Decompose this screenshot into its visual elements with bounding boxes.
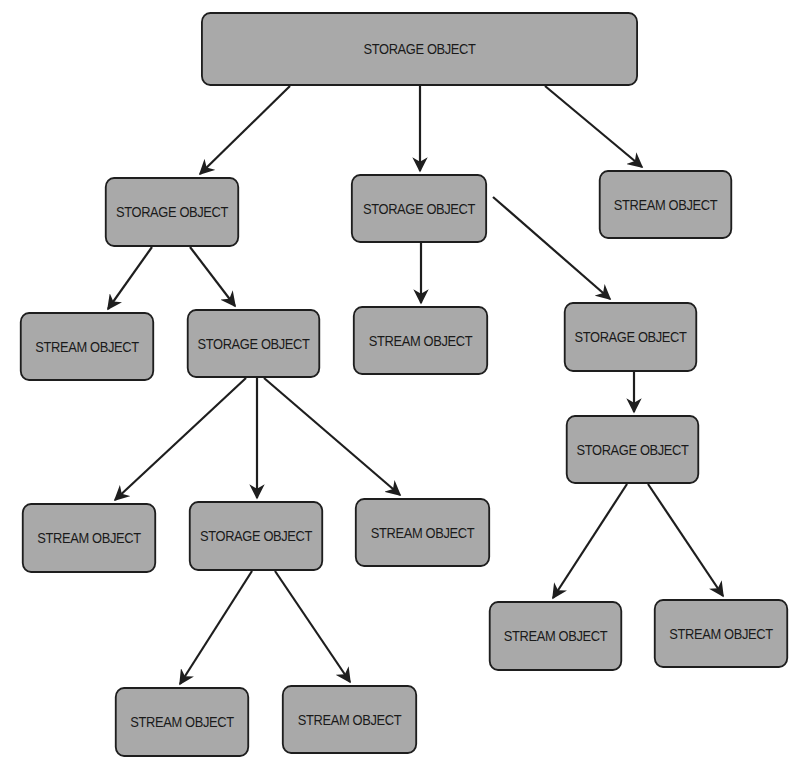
node-label: STORAGE OBJECT [200,528,312,544]
edge-arrow [264,378,400,495]
stream-object-node[interactable]: STREAM OBJECT [599,170,732,239]
stream-object-node[interactable]: STREAM OBJECT [353,306,488,375]
stream-object-node[interactable]: STREAM OBJECT [20,312,154,381]
stream-object-node[interactable]: STREAM OBJECT [489,601,622,671]
storage-object-node[interactable]: STORAGE OBJECT [189,501,323,571]
stream-object-node[interactable]: STREAM OBJECT [654,599,788,668]
storage-object-node[interactable]: STORAGE OBJECT [105,177,239,247]
node-label: STREAM OBJECT [504,628,607,644]
node-label: STORAGE OBJECT [116,204,228,220]
node-label: STREAM OBJECT [298,712,401,728]
edge-arrow [275,571,350,682]
node-label: STREAM OBJECT [614,197,717,213]
node-label: STREAM OBJECT [371,525,474,541]
stream-object-node[interactable]: STREAM OBJECT [22,503,156,573]
node-label: STREAM OBJECT [369,333,472,349]
edge-arrow [545,86,642,167]
edge-arrow [180,571,252,684]
node-label: STORAGE OBJECT [574,329,686,345]
node-label: STORAGE OBJECT [576,442,688,458]
edge-arrow [648,484,723,596]
stream-object-node[interactable]: STREAM OBJECT [355,498,490,567]
storage-object-node[interactable]: STORAGE OBJECT [187,309,320,378]
stream-object-node[interactable]: STREAM OBJECT [282,685,417,754]
node-label: STREAM OBJECT [35,339,138,355]
edge-arrow [115,378,246,500]
storage-object-node[interactable]: STORAGE OBJECT [351,174,487,243]
node-label: STREAM OBJECT [130,714,233,730]
node-label: STREAM OBJECT [37,530,140,546]
node-label: STORAGE OBJECT [363,201,475,217]
root-storage-object-node[interactable]: STORAGE OBJECT [201,12,638,86]
storage-object-node[interactable]: STORAGE OBJECT [564,302,697,372]
edge-arrow [553,484,627,598]
edge-arrow [108,247,152,309]
stream-object-node[interactable]: STREAM OBJECT [115,687,249,757]
edge-arrow [190,247,235,306]
edge-arrow [200,86,290,174]
storage-object-node[interactable]: STORAGE OBJECT [566,415,699,484]
node-label: STORAGE OBJECT [363,41,475,57]
edge-arrow [493,197,610,299]
node-label: STREAM OBJECT [669,626,772,642]
node-label: STORAGE OBJECT [197,336,309,352]
